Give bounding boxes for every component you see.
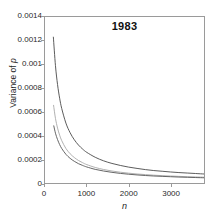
x-axis-tick-mark xyxy=(44,184,45,187)
x-axis-label: n xyxy=(44,201,205,211)
x-axis-tick-mark xyxy=(129,184,130,187)
x-axis-tick-label: 0 xyxy=(24,189,64,198)
x-axis-tick-mark xyxy=(86,184,87,187)
x-axis-tick-label: 3000 xyxy=(151,189,191,198)
x-axis-tick-mark xyxy=(171,184,172,187)
x-axis-tick-label: 1000 xyxy=(66,189,106,198)
chart-figure: 00.00020.00040.00060.00080.0010.00120.00… xyxy=(0,0,213,215)
x-axis-tick-label: 2000 xyxy=(109,189,149,198)
x-axis-ticks: 0100020003000 xyxy=(0,0,213,215)
